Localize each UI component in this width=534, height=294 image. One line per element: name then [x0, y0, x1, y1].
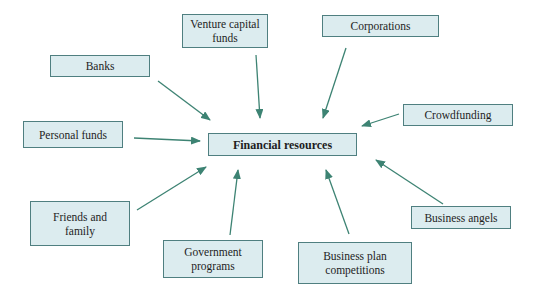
arrow-government: [230, 170, 238, 235]
banks-node: Banks: [50, 55, 150, 77]
crowdfunding-node: Crowdfunding: [403, 104, 513, 126]
venture-capital-funds-node: Venture capital funds: [182, 14, 268, 48]
business-angels-node: Business angels: [411, 206, 511, 229]
node-label: Personal funds: [39, 128, 107, 142]
arrow-business-angels: [376, 160, 443, 204]
arrow-corporations: [323, 48, 346, 118]
node-label: Financial resources: [233, 138, 332, 152]
business-plan-competitions-node: Business plan competitions: [298, 242, 412, 284]
node-label: Business plan competitions: [315, 249, 395, 277]
arrow-venture-capital: [256, 55, 260, 118]
government-programs-node: Government programs: [163, 240, 263, 278]
node-label: Government programs: [173, 245, 253, 273]
arrow-friends-family: [137, 167, 206, 210]
node-label: Venture capital funds: [187, 17, 263, 45]
friends-and-family-node: Friends and family: [30, 201, 130, 246]
node-label: Business angels: [424, 211, 497, 225]
arrow-personal-funds: [134, 138, 200, 141]
node-label: Banks: [86, 59, 115, 73]
node-label: Crowdfunding: [424, 108, 491, 122]
arrow-banks: [158, 81, 210, 120]
node-label: Friends and family: [45, 210, 115, 238]
corporations-node: Corporations: [322, 15, 439, 37]
arrow-crowdfunding: [362, 114, 399, 126]
financial-resources-node: Financial resources: [208, 133, 357, 156]
arrow-business-plan: [326, 170, 349, 234]
node-label: Corporations: [350, 19, 410, 33]
personal-funds-node: Personal funds: [23, 121, 123, 148]
